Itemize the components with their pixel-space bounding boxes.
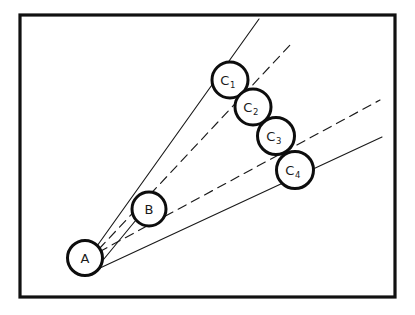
diagram-svg: ABC1C2C3C4 — [0, 0, 415, 315]
node-label-subscript-c1: 1 — [230, 80, 236, 90]
ray-line-ray-3 — [99, 100, 380, 252]
ray-line-ray-1 — [97, 19, 259, 246]
node-c3: C3 — [258, 118, 295, 155]
node-label-b: B — [144, 202, 153, 217]
diagram-canvas: ABC1C2C3C4 — [0, 0, 415, 315]
node-label-subscript-c2: 2 — [253, 107, 259, 117]
node-a: A — [68, 241, 103, 276]
node-label-a: A — [80, 251, 89, 266]
node-c4: C4 — [277, 152, 314, 189]
rays-group — [97, 19, 382, 268]
node-label-subscript-c4: 4 — [295, 170, 301, 180]
node-label-subscript-c3: 3 — [276, 136, 282, 146]
node-b: B — [132, 192, 166, 226]
